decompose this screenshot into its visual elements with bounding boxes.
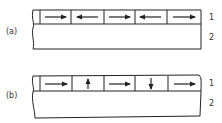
panel-a-outline	[32, 10, 201, 49]
layer-label-1: 1	[209, 13, 214, 22]
magnetic-domain-diagram: (a) 1 2 (b)	[0, 0, 222, 123]
layer-label-2: 2	[209, 99, 214, 108]
panel-label-b: (b)	[6, 91, 17, 100]
layer-label-2: 2	[209, 33, 214, 42]
layer-label-1: 1	[209, 79, 214, 88]
panel-b: (b) 1 2	[6, 75, 214, 118]
panel-a: (a) 1 2	[6, 10, 214, 49]
magnetization-arrows	[45, 78, 195, 89]
panel-label-a: (a)	[6, 27, 17, 36]
panel-b-outline	[32, 75, 201, 118]
